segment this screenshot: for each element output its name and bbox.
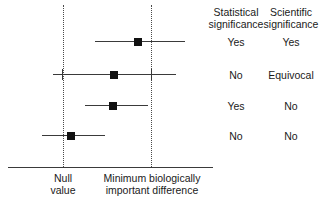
cell-scientific-row-3: No bbox=[258, 100, 324, 112]
column-header-line-2: significance bbox=[258, 18, 324, 30]
point-estimate-marker bbox=[109, 102, 117, 110]
null-value-label-line-1: Null bbox=[33, 172, 93, 184]
cell-scientific-row-1: Yes bbox=[258, 36, 324, 48]
point-estimate-marker bbox=[67, 132, 75, 140]
point-estimate-marker bbox=[134, 38, 142, 46]
confidence-interval-cap-right bbox=[151, 69, 152, 80]
column-header-scientific-significance: Scientific significance bbox=[258, 6, 324, 30]
mbid-axis-label: Minimum biologically important differenc… bbox=[94, 172, 210, 196]
null-value-axis-label: Null value bbox=[33, 172, 93, 196]
mbid-label-line-2: important difference bbox=[94, 184, 210, 196]
forest-plot-figure: Statistical significance Scientific sign… bbox=[0, 0, 326, 203]
null-value-label-line-2: value bbox=[33, 184, 93, 196]
cell-scientific-row-2: Equivocal bbox=[258, 69, 324, 81]
x-axis-line bbox=[8, 167, 213, 168]
confidence-interval-cap-left bbox=[62, 69, 63, 80]
column-header-line-1: Scientific bbox=[258, 6, 324, 18]
cell-scientific-row-4: No bbox=[258, 130, 324, 142]
mbid-label-line-1: Minimum biologically bbox=[94, 172, 210, 184]
point-estimate-marker bbox=[110, 71, 118, 79]
